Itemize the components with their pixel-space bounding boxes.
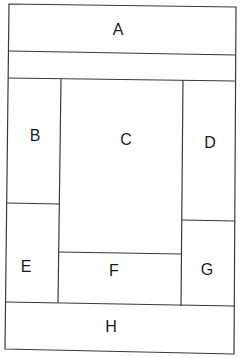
divider-strip-bottom bbox=[8, 78, 236, 81]
divider-c-f bbox=[59, 252, 182, 254]
divider-b-c bbox=[58, 79, 61, 303]
region-h-label: H bbox=[105, 318, 117, 335]
divider-c-d bbox=[181, 80, 183, 306]
divider-b-e bbox=[7, 203, 60, 204]
outer-frame bbox=[5, 4, 236, 354]
region-a-label: A bbox=[113, 21, 124, 38]
layout-diagram: A B C D E F G H bbox=[0, 0, 240, 358]
divider-a-bottom bbox=[9, 51, 236, 55]
divider-d-g bbox=[182, 220, 235, 221]
divider-h-top bbox=[5, 302, 235, 306]
region-c-label: C bbox=[120, 131, 132, 148]
region-d-label: D bbox=[204, 134, 216, 151]
region-e-label: E bbox=[21, 258, 32, 275]
region-b-label: B bbox=[30, 127, 41, 144]
region-g-label: G bbox=[201, 261, 213, 278]
region-f-label: F bbox=[109, 262, 119, 279]
